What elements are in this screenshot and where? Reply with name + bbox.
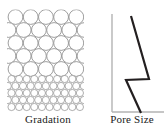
grain-circle — [54, 62, 69, 77]
grain-circle — [8, 75, 15, 82]
grain-circle — [77, 23, 92, 38]
grain-circle — [35, 96, 42, 103]
grain-circle — [54, 36, 69, 51]
grain-circle — [47, 23, 62, 38]
grain-circle — [62, 23, 77, 38]
grain-circle — [12, 96, 19, 103]
grain-circle — [46, 103, 53, 110]
grain-circle — [57, 82, 64, 89]
grain-circle — [12, 82, 19, 89]
grain-circle — [19, 96, 26, 103]
gradation-panel: Gradation — [0, 0, 96, 135]
grain-circle — [61, 103, 68, 110]
grain-circle — [80, 82, 87, 89]
grain-circle — [76, 103, 83, 110]
grain-circle — [32, 49, 47, 64]
grain-circle — [54, 103, 61, 110]
grain-circle — [32, 23, 47, 38]
grain-circle — [31, 89, 38, 96]
grain-circle — [47, 49, 62, 64]
grain-circle — [76, 89, 83, 96]
grain-circle — [54, 10, 69, 25]
grain-circle — [8, 10, 23, 25]
gradation-caption: Gradation — [0, 113, 96, 125]
grain-circle — [23, 75, 30, 82]
grain-circle — [46, 75, 53, 82]
grain-circle — [23, 62, 38, 77]
grain-circle — [62, 49, 77, 64]
grain-circle — [8, 103, 15, 110]
grain-circle — [76, 75, 83, 82]
grain-circle — [16, 49, 31, 64]
grain-circle — [50, 96, 57, 103]
grain-circle — [35, 82, 42, 89]
grain-circle — [23, 103, 30, 110]
grain-circle — [73, 82, 80, 89]
grain-circle — [65, 82, 72, 89]
grain-circle — [31, 103, 38, 110]
grain-circle — [38, 75, 45, 82]
grain-circle — [1, 49, 16, 64]
figure-root: Gradation Pore Size — [0, 0, 168, 135]
grain-circles-group — [1, 10, 92, 111]
grain-circle — [4, 96, 11, 103]
grain-circle — [16, 89, 23, 96]
pore-size-panel: Pore Size — [96, 0, 168, 135]
grain-circle — [23, 10, 38, 25]
grain-circle — [69, 62, 84, 77]
grain-circle — [8, 89, 15, 96]
grain-circle — [39, 36, 54, 51]
grain-circle — [39, 62, 54, 77]
grain-circle — [73, 96, 80, 103]
grain-circle — [61, 89, 68, 96]
grain-circle — [46, 89, 53, 96]
pore-size-caption: Pore Size — [96, 113, 168, 125]
grain-circle — [42, 96, 49, 103]
grain-circle — [80, 96, 87, 103]
grain-circle — [38, 89, 45, 96]
pore-size-curve — [126, 16, 149, 113]
grain-circle — [27, 96, 34, 103]
grain-circle — [69, 36, 84, 51]
grain-circle — [31, 75, 38, 82]
grain-circle — [4, 82, 11, 89]
grain-circle — [65, 96, 72, 103]
grain-circle — [69, 103, 76, 110]
grain-circle — [1, 23, 16, 38]
grain-circle — [38, 103, 45, 110]
grain-circle — [27, 82, 34, 89]
grain-circle — [8, 62, 23, 77]
grain-circle — [69, 10, 84, 25]
grain-circle — [50, 82, 57, 89]
grain-circle — [57, 96, 64, 103]
grain-circle — [16, 23, 31, 38]
grain-circle — [23, 36, 38, 51]
grain-circle — [16, 75, 23, 82]
grain-circle — [8, 36, 23, 51]
grain-circle — [42, 82, 49, 89]
grain-circle — [54, 89, 61, 96]
grain-circle — [19, 82, 26, 89]
grain-circle — [16, 103, 23, 110]
grain-circle — [69, 75, 76, 82]
grain-circle — [54, 75, 61, 82]
grain-circle — [61, 75, 68, 82]
grain-circle — [23, 89, 30, 96]
grain-circle — [39, 10, 54, 25]
grain-circle — [69, 89, 76, 96]
grain-circle — [77, 49, 92, 64]
